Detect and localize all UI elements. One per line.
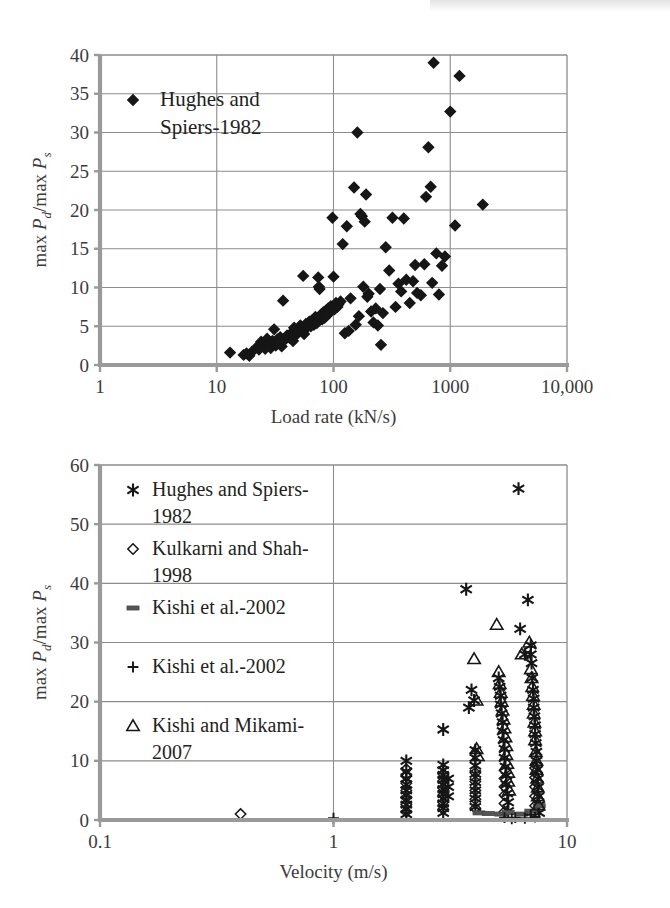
velocity-scatter-plot: 01020304050600.1110Velocity (m/s)max Pd/… bbox=[0, 452, 670, 908]
y-tick-label: 0 bbox=[80, 810, 90, 831]
x-axis-title: Load rate (kN/s) bbox=[271, 406, 397, 428]
data-point-dash bbox=[482, 811, 494, 815]
chart-panel-load-rate: 0510152025303540110100100010,000Load rat… bbox=[0, 0, 670, 452]
load-rate-scatter-plot: 0510152025303540110100100010,000Load rat… bbox=[0, 0, 670, 452]
y-tick-label: 30 bbox=[70, 122, 89, 143]
legend-label: Hughes and bbox=[160, 87, 260, 111]
y-axis-title-text: max Pd/max Ps bbox=[29, 153, 54, 268]
x-tick-label: 1000 bbox=[431, 376, 469, 397]
x-axis-ticks: 0.1110 bbox=[88, 820, 576, 852]
legend-label: Kishi and Mikami- bbox=[152, 714, 304, 736]
y-tick-label: 20 bbox=[70, 200, 89, 221]
y-axis-ticks: 0510152025303540 bbox=[70, 45, 100, 376]
y-tick-label: 20 bbox=[70, 691, 89, 712]
x-tick-label: 10 bbox=[207, 376, 226, 397]
y-axis-title-text: max Pd/max Ps bbox=[29, 585, 54, 700]
y-tick-label: 35 bbox=[70, 83, 89, 104]
y-tick-label: 5 bbox=[80, 316, 90, 337]
y-tick-label: 10 bbox=[70, 750, 89, 771]
y-tick-label: 30 bbox=[70, 632, 89, 653]
legend-label: Kishi et al.-2002 bbox=[152, 655, 286, 677]
y-tick-label: 60 bbox=[70, 455, 89, 476]
legend-label-continued: 1982 bbox=[152, 505, 192, 527]
y-tick-label: 40 bbox=[70, 573, 89, 594]
y-tick-label: 10 bbox=[70, 277, 89, 298]
y-tick-label: 15 bbox=[70, 238, 89, 259]
y-axis-ticks: 0102030405060 bbox=[70, 455, 100, 831]
legend-label-continued: Spiers-1982 bbox=[160, 115, 262, 139]
legend-label-continued: 1998 bbox=[152, 564, 192, 586]
x-tick-label: 0.1 bbox=[88, 831, 112, 852]
y-tick-label: 25 bbox=[70, 161, 89, 182]
x-tick-label: 100 bbox=[319, 376, 348, 397]
x-tick-label: 10 bbox=[558, 831, 577, 852]
legend-label: Kishi et al.-2002 bbox=[152, 596, 286, 618]
x-axis-ticks: 110100100010,000 bbox=[95, 365, 593, 397]
x-tick-label: 1 bbox=[95, 376, 105, 397]
x-tick-label: 1 bbox=[329, 831, 339, 852]
legend-label: Hughes and Spiers- bbox=[152, 478, 309, 501]
legend-label-continued: 2007 bbox=[152, 741, 192, 763]
y-tick-label: 0 bbox=[80, 355, 90, 376]
x-axis-title: Velocity (m/s) bbox=[279, 861, 387, 883]
legend-label: Kulkarni and Shah- bbox=[152, 537, 309, 559]
y-axis-title: max Pd/max Ps bbox=[29, 585, 54, 700]
chart-panel-velocity: 01020304050600.1110Velocity (m/s)max Pd/… bbox=[0, 452, 670, 908]
y-tick-label: 50 bbox=[70, 514, 89, 535]
y-tick-label: 40 bbox=[70, 45, 89, 66]
y-axis-title: max Pd/max Ps bbox=[29, 153, 54, 268]
data-point-dash bbox=[127, 606, 139, 610]
x-tick-label: 10,000 bbox=[541, 376, 593, 397]
